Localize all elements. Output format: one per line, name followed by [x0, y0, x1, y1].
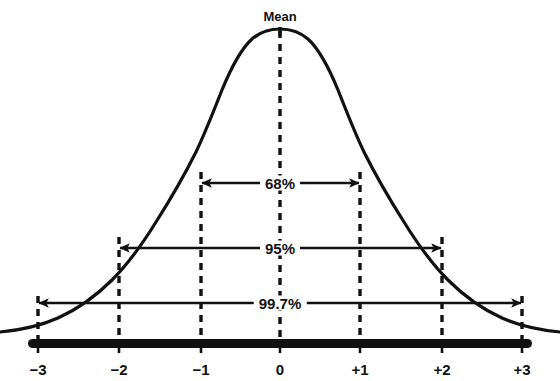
- axis-label-plus3: +3: [513, 362, 530, 377]
- axis-label-zero: 0: [276, 362, 284, 377]
- axis-label-minus2: −2: [110, 362, 127, 377]
- band-label-95: 95%: [260, 241, 300, 256]
- band-label-997: 99.7%: [254, 296, 307, 311]
- mean-label: Mean: [263, 10, 296, 23]
- axis-label-plus1: +1: [351, 362, 368, 377]
- axis-label-minus1: −1: [192, 362, 209, 377]
- axis-label-minus3: −3: [29, 362, 46, 377]
- axis-label-plus2: +2: [433, 362, 450, 377]
- normal-distribution-figure: Mean 68% 95% 99.7% −3 −2 −1 0 +1 +2 +3: [0, 0, 560, 381]
- band-label-68: 68%: [260, 176, 300, 191]
